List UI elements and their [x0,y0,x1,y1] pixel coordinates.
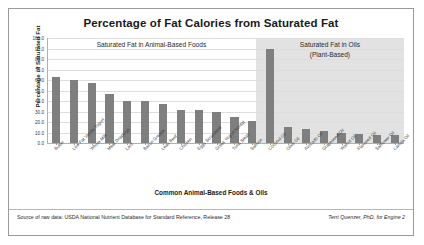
x-tick-label: Salmon [249,148,253,152]
y-tick-label: 10.0 [35,130,44,135]
bar [123,101,131,143]
gridline [47,101,404,102]
bar [70,80,78,143]
x-tick-label: Walnut Oil [339,148,343,152]
x-tick-label: Grapeseed Oil [321,148,325,152]
gridline [47,59,404,60]
annotation-animal-band: Saturated Fat in Animal-Based Foods [47,40,256,50]
x-tick-label: Canola Oil [392,148,396,152]
y-tick-label: 90.0 [35,46,44,51]
x-tick-label: Olive Oil [285,148,289,152]
footer-source: Source of raw data: USDA National Nutrie… [17,214,230,220]
y-tick-label: 60.0 [35,78,44,83]
x-tick-label: Butter [53,148,57,152]
y-tick-label: 70.0 [35,67,44,72]
bar [248,121,256,143]
gridline [47,133,404,134]
y-axis-line [47,38,48,143]
chart-card: Percentage of Fat Calories from Saturate… [8,8,414,236]
x-tick-label: Low Fat Vanilla Yogurt [71,148,75,152]
x-tick-label: Greek Yogurt Nonfat [214,148,218,152]
annotation-oils-band: Saturated Fat in Oils (Plant-Based) [256,40,404,59]
x-tick-label: Coconut Oil [267,148,271,152]
x-tick-label: Flaxseed Oil [357,148,361,152]
gridline [47,80,404,81]
annotation-oils-line1: Saturated Fat in Oils [256,40,404,50]
footer-credit-brand: Engine 2 [384,214,405,220]
y-tick-label: 100.0 [33,36,45,41]
x-tick-label: Avocado Oil [303,148,307,152]
x-tick-label: Chicken [178,148,182,152]
x-tick-label: Lean Beef [160,148,164,152]
x-tick-label: Eggs Scrambled [196,148,200,152]
bar [266,49,274,144]
x-tick-label: Safflower Oil [374,148,378,152]
annotation-oils-line2: (Plant-Based) [256,50,404,60]
gridline [47,70,404,71]
bar [177,110,185,143]
y-tick-label: 0.0 [38,141,44,146]
gridline [47,38,404,39]
bar [141,101,149,143]
y-tick-label: 40.0 [35,99,44,104]
y-tick-label: 30.0 [35,109,44,114]
y-tick-label: 50.0 [35,88,44,93]
footer-credit: Terri Quenzer, PhD, for Engine 2 [328,214,405,220]
y-tick-label: 20.0 [35,120,44,125]
x-tick-label: Meat Drippings [107,148,111,152]
x-tick-label: Lard [125,148,129,152]
footer-credit-prefix: Terri Quenzer, PhD, for [328,214,384,220]
x-tick-label: Bacon Grease [142,148,146,152]
footer-divider [9,209,413,210]
chart-title: Percentage of Fat Calories from Saturate… [9,17,413,29]
y-tick-label: 80.0 [35,57,44,62]
y-axis-tick-labels: 100.090.080.070.060.050.040.030.020.010.… [23,38,44,143]
x-axis-title: Common Animal-Based Foods & Oils [9,189,413,196]
x-tick-label: Tuna Steak [232,148,236,152]
bar [195,110,203,143]
gridline [47,91,404,92]
bar [159,104,167,143]
gridline [47,112,404,113]
x-tick-label: Whole Milk [89,148,93,152]
bar [52,77,60,143]
